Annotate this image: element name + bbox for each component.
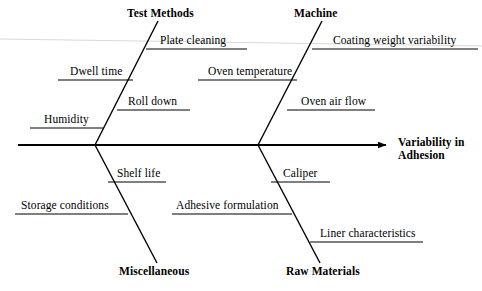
cause-label-caliper: Caliper [283,168,318,180]
effect-label-line1: Variability in [398,136,464,149]
category-label-miscellaneous: Miscellaneous [119,266,189,278]
cause-label-humidity: Humidity [44,114,89,126]
cause-label-liner-characteristics: Liner characteristics [320,228,416,240]
category-label-raw-materials: Raw Materials [286,266,360,278]
cause-label-plate-cleaning: Plate cleaning [160,35,226,47]
fishbone-diagram: Test Methods Machine Miscellaneous Raw M… [0,0,482,291]
cause-label-oven-temperature: Oven temperature [208,66,292,78]
cause-label-roll-down: Roll down [128,96,177,108]
cause-label-oven-air-flow: Oven air flow [301,96,366,108]
cause-label-coating-weight-variability: Coating weight variability [333,35,456,47]
cause-label-dwell-time: Dwell time [70,66,122,78]
bone-test-methods [95,21,158,145]
effect-label: Variability in Adhesion [398,136,464,162]
category-label-test-methods: Test Methods [127,8,194,20]
effect-label-line2: Adhesion [398,149,464,162]
cause-label-shelf-life: Shelf life [117,168,160,180]
bone-machine [258,21,322,145]
category-label-machine: Machine [294,8,338,20]
cause-label-storage-conditions: Storage conditions [21,200,109,212]
cause-label-adhesive-formulation: Adhesive formulation [176,200,279,212]
